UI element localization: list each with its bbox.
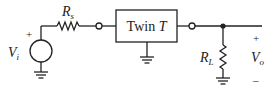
series-resistor [57,22,79,30]
load-resistor-label: RL [199,50,214,67]
voltage-source [30,26,52,72]
load-ground-icon [216,78,230,84]
block-ground-icon [140,57,154,63]
series-resistor-label: Rs [61,4,75,21]
output-terminal [189,23,195,29]
output-minus-sign: – [252,74,259,86]
source-label: Vi [8,45,20,62]
source-ground-icon [34,72,48,78]
twin-t-label: Twin T [127,19,168,34]
input-terminal [96,23,102,29]
source-plus-sign: + [26,28,32,40]
output-label: Vo [251,50,265,67]
twin-t-circuit-diagram: + Vi Rs Twin T RL + Vo – [0,0,275,90]
output-plus-sign: + [253,32,259,44]
load-resistor [220,45,226,69]
